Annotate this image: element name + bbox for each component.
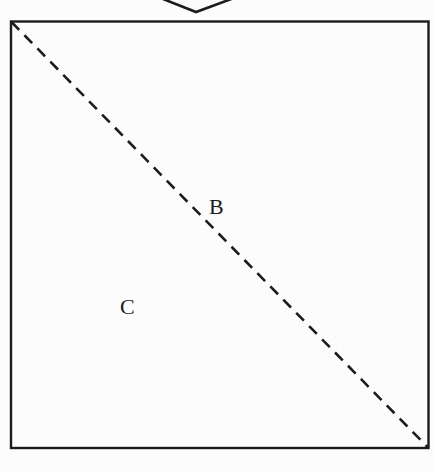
dashed-diagonal-line — [12, 22, 429, 448]
figure-drawing — [0, 0, 434, 472]
label-c: C — [120, 296, 135, 318]
geometry-figure: B C — [0, 0, 434, 472]
chevron-down-icon — [158, 0, 234, 12]
label-b: B — [209, 196, 224, 218]
